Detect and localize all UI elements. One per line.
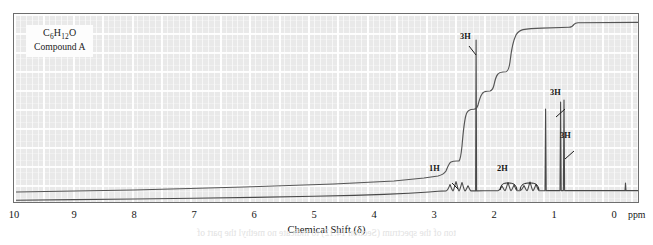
axis-tick-2: 2 xyxy=(491,209,496,220)
compound-label-box: C6H12O Compound A xyxy=(26,25,93,57)
nmr-trace xyxy=(16,40,638,200)
axis-unit-label: ppm xyxy=(628,209,645,220)
leader-line-3h-singlet xyxy=(469,46,476,55)
axis-tick-5: 5 xyxy=(311,209,316,220)
spectrum-plot-area xyxy=(13,13,639,203)
axis-tick-8: 8 xyxy=(131,209,136,220)
axis-tick-10: 10 xyxy=(9,209,20,220)
axis-tick-6: 6 xyxy=(251,209,256,220)
peak-label-3h-doublet: 3H xyxy=(560,131,571,140)
peak-label-3h-mid: 3H xyxy=(550,88,561,97)
x-axis: 10 9 8 7 6 5 4 3 2 1 0 ppm xyxy=(0,203,653,225)
nmr-spectrum-figure: C6H12O Compound A 3H 3H 3H 1H 2H 10 9 8 … xyxy=(0,0,653,245)
molecular-formula: C6H12O xyxy=(34,27,85,41)
axis-tick-0: 0 xyxy=(611,209,616,220)
page-bleed-text-bottom: ton of the spectrum (Section 14.12) to i… xyxy=(0,228,653,238)
axis-tick-4: 4 xyxy=(371,209,376,220)
compound-name: Compound A xyxy=(34,41,85,53)
peak-label-2h: 2H xyxy=(497,164,508,173)
axis-tick-1: 1 xyxy=(551,209,556,220)
axis-tick-3: 3 xyxy=(431,209,436,220)
spectrum-traces xyxy=(14,14,639,203)
page-bleed-text-top xyxy=(0,0,653,10)
axis-tick-7: 7 xyxy=(191,209,196,220)
leader-line-3h-doublet xyxy=(565,151,574,159)
peak-label-3h-singlet: 3H xyxy=(460,32,471,41)
axis-tick-9: 9 xyxy=(71,209,76,220)
peak-label-1h: 1H xyxy=(429,164,440,173)
